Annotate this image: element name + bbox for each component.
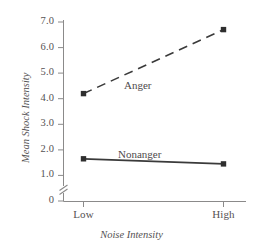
series-line-anger	[84, 30, 224, 94]
x-axis-title: Noise Intensity	[0, 229, 263, 240]
data-point-nonanger-high	[221, 161, 226, 166]
x-tick-label-high: High	[201, 208, 247, 220]
x-tick-label-low: Low	[61, 208, 107, 220]
y-axis-title: Mean Shock Intensity	[20, 73, 31, 163]
y-tick-label-7: 7.0	[24, 15, 54, 26]
x-axis-ticks	[84, 202, 224, 208]
figure-container: 7.0 6.0 5.0 4.0 3.0 2.0 1.0 0 Low High M…	[0, 0, 263, 250]
data-point-nonanger-low	[81, 156, 86, 161]
y-tick-label-0: 0	[24, 194, 54, 205]
y-axis-ticks	[58, 22, 64, 201]
series-label-nonanger: Nonanger	[118, 148, 161, 160]
y-tick-label-1: 1.0	[24, 168, 54, 179]
data-point-anger-low	[81, 91, 86, 96]
y-tick-label-6: 6.0	[24, 41, 54, 52]
caption-fragment	[2, 243, 261, 249]
data-point-anger-high	[221, 27, 226, 32]
series-label-anger: Anger	[124, 79, 152, 91]
